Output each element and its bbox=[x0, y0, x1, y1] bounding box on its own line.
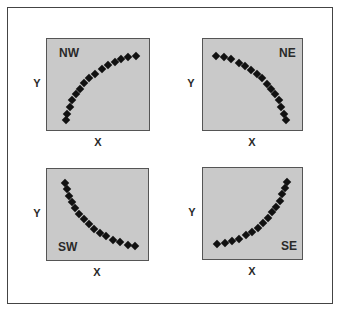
panel-ne: NE bbox=[202, 38, 303, 131]
quadrant-label-nw: NW bbox=[59, 47, 79, 59]
panel-sw: SW bbox=[46, 168, 149, 261]
x-axis-label-sw: X bbox=[93, 267, 100, 278]
quadrant-label-se: SE bbox=[281, 240, 297, 252]
data-point-diamond bbox=[132, 52, 140, 60]
data-point-diamond bbox=[213, 240, 221, 248]
quadrant-label-sw: SW bbox=[58, 241, 77, 253]
y-axis-label-se: Y bbox=[188, 207, 195, 218]
y-axis-label-nw: Y bbox=[33, 78, 40, 89]
panel-nw: NW bbox=[46, 38, 150, 131]
data-point-diamond bbox=[131, 242, 139, 250]
x-axis-label-ne: X bbox=[248, 137, 255, 148]
y-axis-label-ne: Y bbox=[187, 78, 194, 89]
data-point-diamond bbox=[282, 116, 290, 124]
data-point-diamond bbox=[124, 53, 132, 61]
panel-se: SE bbox=[202, 167, 303, 260]
y-axis-label-sw: Y bbox=[33, 208, 40, 219]
quadrant-label-ne: NE bbox=[279, 47, 296, 59]
x-axis-label-se: X bbox=[248, 266, 255, 277]
x-axis-label-nw: X bbox=[94, 137, 101, 148]
